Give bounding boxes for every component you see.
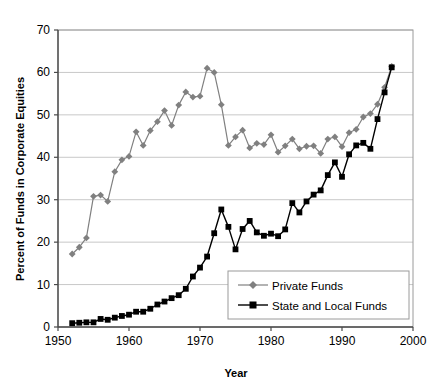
- data-point: [353, 126, 360, 133]
- data-point: [246, 145, 253, 152]
- legend-box: [228, 271, 409, 319]
- data-point: [211, 230, 217, 236]
- data-point: [332, 159, 338, 165]
- data-point: [324, 136, 331, 143]
- x-tick-label-1970: 1970: [187, 334, 214, 348]
- data-point: [218, 101, 225, 108]
- x-tick-label-1960: 1960: [116, 334, 143, 348]
- data-point: [261, 233, 267, 239]
- data-point: [176, 292, 182, 298]
- data-point: [126, 312, 132, 318]
- x-tick-label-1950: 1950: [45, 334, 72, 348]
- legend-label: State and Local Funds: [272, 300, 387, 312]
- gridlines: [58, 30, 413, 285]
- data-point: [147, 306, 153, 312]
- data-point: [204, 65, 211, 72]
- data-point: [304, 199, 310, 205]
- data-point: [346, 151, 352, 157]
- x-axis-title: Year: [224, 367, 248, 379]
- data-point: [297, 210, 303, 216]
- data-point: [69, 320, 75, 326]
- data-point: [282, 227, 288, 233]
- data-point: [76, 320, 82, 326]
- data-point: [161, 107, 168, 114]
- data-point: [360, 140, 366, 146]
- data-point: [389, 64, 395, 70]
- data-point: [382, 89, 388, 95]
- y-tick-label-20: 20: [37, 235, 51, 249]
- data-point: [98, 316, 104, 322]
- data-point: [254, 229, 260, 235]
- y-tick-label-60: 60: [37, 65, 51, 79]
- data-point: [111, 168, 118, 175]
- data-point: [119, 313, 125, 319]
- x-tick-label-2000: 2000: [400, 334, 427, 348]
- y-axis-tick-labels: 010203040506070: [37, 23, 51, 334]
- data-point: [140, 142, 147, 149]
- data-point: [346, 129, 353, 136]
- data-point: [353, 143, 359, 149]
- data-point: [253, 140, 260, 147]
- line-chart: 195019601970198019902000 010203040506070…: [0, 0, 443, 388]
- legend-label: Private Funds: [272, 280, 343, 292]
- data-point: [240, 226, 246, 232]
- data-point: [190, 274, 196, 280]
- data-point: [268, 231, 274, 237]
- data-point: [247, 218, 253, 224]
- data-point: [311, 192, 317, 198]
- data-point: [275, 233, 281, 239]
- data-point: [105, 317, 111, 323]
- data-point: [368, 146, 374, 152]
- data-point: [375, 116, 381, 122]
- data-point: [133, 128, 140, 135]
- data-point: [197, 265, 203, 271]
- data-point: [84, 319, 90, 325]
- data-point: [162, 299, 168, 305]
- data-point: [233, 246, 239, 252]
- data-point: [168, 122, 175, 129]
- data-point: [112, 315, 118, 321]
- data-point: [197, 93, 204, 100]
- y-tick-label-70: 70: [37, 23, 51, 37]
- y-tick-label-10: 10: [37, 278, 51, 292]
- data-point: [175, 102, 182, 109]
- data-point: [318, 187, 324, 193]
- series-private-funds: [69, 63, 395, 257]
- data-point: [91, 319, 97, 325]
- y-tick-label-40: 40: [37, 150, 51, 164]
- y-tick-label-0: 0: [43, 320, 50, 334]
- chart-legend: Private FundsState and Local Funds: [228, 271, 409, 319]
- legend-marker-square-icon: [250, 302, 257, 309]
- data-point: [183, 286, 189, 292]
- x-axis-tick-labels: 195019601970198019902000: [45, 334, 427, 348]
- x-tick-label-1990: 1990: [329, 334, 356, 348]
- data-point: [169, 295, 175, 301]
- y-axis-title: Percent of Funds in Corporate Equities: [14, 77, 26, 281]
- data-point: [204, 254, 210, 260]
- data-point: [325, 172, 331, 178]
- data-point: [211, 69, 218, 76]
- data-point: [155, 302, 161, 308]
- x-tick-label-1980: 1980: [258, 334, 285, 348]
- chart-container: 195019601970198019902000 010203040506070…: [0, 0, 443, 388]
- data-point: [226, 224, 232, 230]
- data-point: [289, 200, 295, 206]
- data-point: [140, 309, 146, 315]
- data-point: [126, 153, 133, 160]
- y-tick-label-50: 50: [37, 108, 51, 122]
- data-point: [133, 309, 139, 315]
- data-point: [218, 207, 224, 213]
- data-point: [90, 193, 97, 200]
- data-point: [339, 174, 345, 180]
- data-point: [303, 143, 310, 150]
- y-tick-label-30: 30: [37, 193, 51, 207]
